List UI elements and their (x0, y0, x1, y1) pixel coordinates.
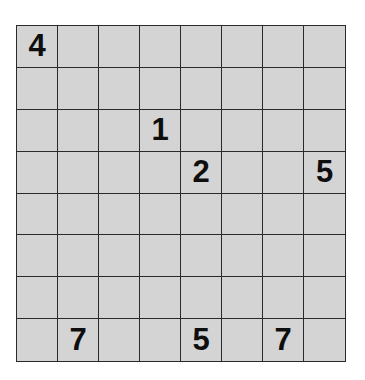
grid-cell-r5-c1[interactable] (17, 194, 58, 236)
grid-cell-r3-c2[interactable] (58, 110, 99, 152)
grid-cell-r5-c3[interactable] (99, 194, 140, 236)
grid-cell-r4-c4[interactable] (140, 152, 181, 194)
grid-cell-r2-c5[interactable] (181, 68, 222, 110)
grid-cell-r2-c6[interactable] (222, 68, 263, 110)
grid-cell-r1-c4[interactable] (140, 26, 181, 68)
grid-cell-r8-c2[interactable]: 7 (58, 319, 99, 361)
grid-cell-r8-c1[interactable] (17, 319, 58, 361)
grid-cell-r1-c3[interactable] (99, 26, 140, 68)
grid-cell-r4-c8[interactable]: 5 (304, 152, 345, 194)
grid-cell-r4-c3[interactable] (99, 152, 140, 194)
grid-cell-r1-c6[interactable] (222, 26, 263, 68)
grid-cell-r7-c6[interactable] (222, 277, 263, 319)
grid-cell-r5-c7[interactable] (263, 194, 304, 236)
grid-cell-r6-c7[interactable] (263, 235, 304, 277)
grid-cell-r1-c5[interactable] (181, 26, 222, 68)
grid-cell-r5-c5[interactable] (181, 194, 222, 236)
grid-cell-r6-c3[interactable] (99, 235, 140, 277)
grid-cell-r7-c4[interactable] (140, 277, 181, 319)
grid-cell-r3-c5[interactable] (181, 110, 222, 152)
grid-cell-r8-c8[interactable] (304, 319, 345, 361)
grid-cell-r2-c7[interactable] (263, 68, 304, 110)
grid-cell-r8-c7[interactable]: 7 (263, 319, 304, 361)
grid-cell-r3-c7[interactable] (263, 110, 304, 152)
grid-cell-r2-c3[interactable] (99, 68, 140, 110)
grid-cell-r4-c7[interactable] (263, 152, 304, 194)
grid-cell-r3-c1[interactable] (17, 110, 58, 152)
grid-cell-r8-c5[interactable]: 5 (181, 319, 222, 361)
puzzle-grid: 4125757 (16, 25, 346, 362)
grid-cell-r2-c8[interactable] (304, 68, 345, 110)
grid-cell-r6-c5[interactable] (181, 235, 222, 277)
grid-cell-r8-c4[interactable] (140, 319, 181, 361)
grid-cell-r8-c3[interactable] (99, 319, 140, 361)
grid-cell-r1-c2[interactable] (58, 26, 99, 68)
grid-cell-r5-c2[interactable] (58, 194, 99, 236)
grid-cell-r1-c7[interactable] (263, 26, 304, 68)
grid-cell-r2-c2[interactable] (58, 68, 99, 110)
grid-cell-r4-c5[interactable]: 2 (181, 152, 222, 194)
grid-cell-r7-c8[interactable] (304, 277, 345, 319)
grid-cell-r7-c5[interactable] (181, 277, 222, 319)
grid-cell-r3-c4[interactable]: 1 (140, 110, 181, 152)
grid-cell-r8-c6[interactable] (222, 319, 263, 361)
grid-cell-r4-c2[interactable] (58, 152, 99, 194)
grid-cell-r5-c4[interactable] (140, 194, 181, 236)
grid-cell-r6-c8[interactable] (304, 235, 345, 277)
grid-cell-r3-c6[interactable] (222, 110, 263, 152)
grid-cell-r1-c1[interactable]: 4 (17, 26, 58, 68)
grid-cell-r7-c2[interactable] (58, 277, 99, 319)
grid-cell-r6-c4[interactable] (140, 235, 181, 277)
grid-cell-r4-c6[interactable] (222, 152, 263, 194)
grid-cell-r2-c1[interactable] (17, 68, 58, 110)
grid-cell-r5-c6[interactable] (222, 194, 263, 236)
grid-cell-r7-c3[interactable] (99, 277, 140, 319)
grid-cell-r2-c4[interactable] (140, 68, 181, 110)
grid-cell-r1-c8[interactable] (304, 26, 345, 68)
grid-cell-r3-c8[interactable] (304, 110, 345, 152)
grid-cell-r4-c1[interactable] (17, 152, 58, 194)
grid-cell-r7-c1[interactable] (17, 277, 58, 319)
grid-cell-r6-c1[interactable] (17, 235, 58, 277)
grid-cell-r6-c6[interactable] (222, 235, 263, 277)
grid-cell-r7-c7[interactable] (263, 277, 304, 319)
grid-cell-r3-c3[interactable] (99, 110, 140, 152)
grid-cell-r6-c2[interactable] (58, 235, 99, 277)
grid-cell-r5-c8[interactable] (304, 194, 345, 236)
